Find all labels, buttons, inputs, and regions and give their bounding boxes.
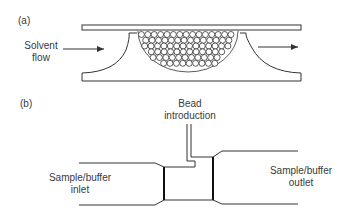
bead-introduction-line1: Bead: [150, 98, 230, 110]
bead-bed: [138, 31, 238, 72]
column-top-plate: [82, 25, 301, 30]
panel-a-label: (a): [18, 15, 30, 27]
solvent-flow-line1: Solvent: [18, 40, 64, 52]
solvent-flow-line2: flow: [18, 52, 64, 64]
panel-b-label: (b): [20, 98, 32, 110]
outlet-label-line2: outlet: [266, 177, 336, 189]
inlet-label-line1: Sample/buffer: [45, 172, 115, 184]
outlet-label: Sample/buffer outlet: [266, 165, 336, 189]
bead-introduction-label: Bead introduction: [150, 98, 230, 122]
outlet-label-line1: Sample/buffer: [266, 165, 336, 177]
inlet-label: Sample/buffer inlet: [45, 172, 115, 196]
bead-introduction-line2: introduction: [150, 110, 230, 122]
inlet-label-line2: inlet: [45, 184, 115, 196]
solvent-flow-label: Solvent flow: [18, 40, 64, 64]
